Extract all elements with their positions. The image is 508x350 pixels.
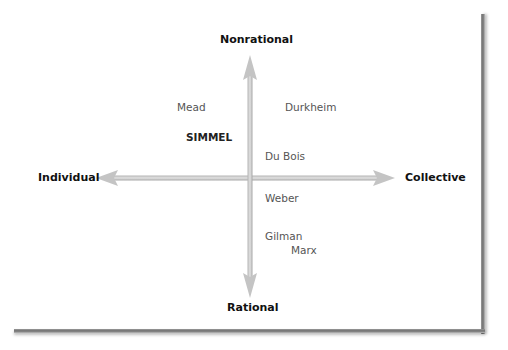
theorist-marx: Marx	[291, 244, 317, 256]
theorist-weber: Weber	[265, 192, 299, 204]
theorist-mead: Mead	[177, 101, 206, 113]
axis-label-bottom: Rational	[227, 302, 279, 314]
quadrant-diagram: Nonrational Rational Individual Collecti…	[0, 0, 508, 350]
theorist-durkheim: Durkheim	[285, 101, 336, 113]
horizontal-axis-arrow	[96, 170, 395, 186]
theorist-gilman: Gilman	[265, 230, 302, 242]
axis-label-right: Collective	[405, 172, 466, 184]
axis-label-top: Nonrational	[220, 34, 293, 46]
theorist-simmel: SIMMEL	[186, 131, 232, 143]
theorist-du-bois: Du Bois	[265, 150, 305, 162]
axis-label-left: Individual	[38, 172, 99, 184]
